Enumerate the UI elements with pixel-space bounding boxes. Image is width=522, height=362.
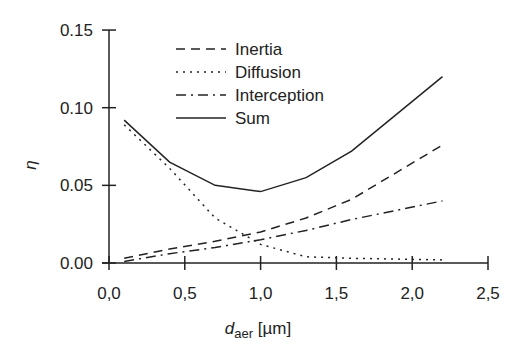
x-tick-label: 0,0 xyxy=(97,284,121,303)
legend-label-sum: Sum xyxy=(235,109,270,128)
y-axis-label: η xyxy=(21,160,40,169)
legend-label-inertia: Inertia xyxy=(235,40,283,59)
x-tick-label: 1,5 xyxy=(325,284,349,303)
chart: 0.000.050.100.150,00,51,01,52,02,5 Inert… xyxy=(0,0,522,362)
x-tick-label: 2,5 xyxy=(476,284,500,303)
series-interception-line xyxy=(124,201,442,262)
x-tick-label: 2,0 xyxy=(400,284,424,303)
y-tick-label: 0.05 xyxy=(60,176,93,195)
series-inertia-line xyxy=(124,145,442,258)
x-axis-label: daer [µm] xyxy=(225,319,291,341)
legend-label-interception: Interception xyxy=(235,86,324,105)
legend: InertiaDiffusionInterceptionSum xyxy=(176,40,324,128)
legend-label-diffusion: Diffusion xyxy=(235,63,301,82)
y-tick-label: 0.10 xyxy=(60,99,93,118)
y-tick-label: 0.15 xyxy=(60,21,93,40)
x-tick-label: 1,0 xyxy=(249,284,273,303)
series-diffusion-line xyxy=(124,125,442,260)
x-tick-label: 0,5 xyxy=(173,284,197,303)
y-tick-label: 0.00 xyxy=(60,254,93,273)
